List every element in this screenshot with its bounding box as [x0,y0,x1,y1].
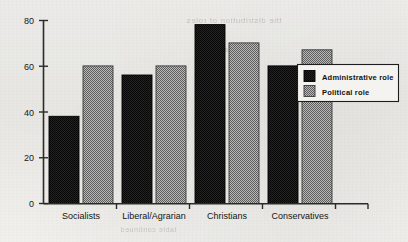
bars-group-liberal-agrarian [122,66,186,204]
legend: Administrative role Political role [298,65,399,102]
y-axis: 80 60 40 20 0 [24,16,48,209]
bar-administrative-christians[interactable] [195,25,225,204]
y-tick-label-0: 0 [29,199,34,209]
x-tick-label-liberal-agrarian: Liberal/Agrarian [122,211,186,221]
legend-item-political-role[interactable]: Political role [304,86,369,97]
x-tick-label-christians: Christians [207,211,248,221]
bar-chart: 80 60 40 20 0 [0,0,408,242]
chart-svg: 80 60 40 20 0 [0,0,408,242]
legend-label-administrative-role: Administrative role [322,73,394,82]
y-tick-label-80: 80 [24,16,34,26]
bar-administrative-liberal-agrarian[interactable] [122,75,152,204]
legend-swatch-administrative-role [304,71,315,82]
y-tick-label-20: 20 [24,153,34,163]
bar-political-socialists[interactable] [83,66,113,204]
bars-group-socialists [49,66,113,204]
legend-label-political-role: Political role [322,88,369,97]
x-tick-label-conservatives: Conservatives [271,211,329,221]
y-tick-label-60: 60 [24,62,34,72]
y-tick-label-40: 40 [24,108,34,118]
bar-administrative-socialists[interactable] [49,116,79,203]
bar-political-liberal-agrarian[interactable] [156,66,186,204]
x-tick-label-socialists: Socialists [62,211,101,221]
bars-group-christians [195,25,259,204]
bar-administrative-conservatives[interactable] [268,66,298,204]
bar-political-christians[interactable] [229,43,259,204]
legend-swatch-political-role [304,86,315,97]
x-axis: Socialists Liberal/Agrarian Christians C… [44,204,369,221]
